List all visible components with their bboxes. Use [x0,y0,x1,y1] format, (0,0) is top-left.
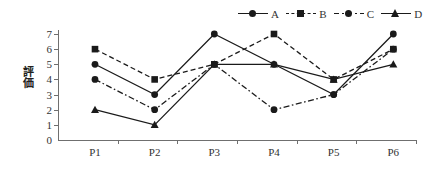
legend-item-b[interactable]: B [286,6,334,22]
data-point-marker [151,91,158,98]
legend-label: A [271,9,279,20]
data-point-marker [151,76,158,83]
data-point-marker [151,106,158,113]
series-line [95,64,393,125]
x-axis-tick-mark [297,140,298,144]
legend-item-c[interactable]: C [334,6,382,22]
legend-label: D [414,9,422,20]
legend-item-a[interactable]: A [238,6,286,22]
data-point-marker [211,31,218,38]
data-point-marker [390,46,397,53]
data-point-marker [92,46,99,53]
y-axis-tick-mark [54,64,58,65]
y-axis-tick-mark [54,49,58,50]
data-point-marker [92,61,99,68]
legend-marker-square-icon [297,10,304,17]
chart-legend: ABCD [238,6,429,22]
legend-swatch-c [334,8,364,20]
y-axis-tick-mark [54,79,58,80]
legend-marker-circle-icon [249,10,256,17]
legend-swatch-a [238,8,268,20]
y-axis-tick-mark [54,110,58,111]
y-axis-title: 評価 [17,66,33,88]
x-axis-tick-mark [416,140,417,144]
data-point-marker [271,106,278,113]
data-point-marker [92,76,99,83]
chart-figure: ABCD 評価 01234567 P1P2P3P4P5P6 [0,0,429,179]
legend-swatch-d [381,8,411,20]
x-axis-tick-mark [177,140,178,144]
data-point-marker [271,31,278,38]
legend-item-d[interactable]: D [381,6,429,22]
x-axis-tick-mark [118,140,119,144]
y-axis-tick-mark [54,34,58,35]
y-axis-tick-mark [54,95,58,96]
series-canvas [38,30,416,155]
data-point-marker [91,106,99,113]
data-point-marker [389,60,397,67]
legend-label: C [367,9,375,20]
plot-area: 01234567 P1P2P3P4P5P6 [38,30,416,155]
series-line [95,34,393,79]
legend-swatch-b [286,8,316,20]
legend-marker-triangle-icon [391,9,399,17]
x-axis-tick-mark [237,140,238,144]
series-c [92,46,397,113]
legend-marker-circle-icon [345,10,352,17]
data-point-marker [390,31,397,38]
y-axis-tick-mark [54,125,58,126]
x-axis-tick-mark [356,140,357,144]
legend-label: B [319,9,327,20]
data-point-marker [330,91,337,98]
